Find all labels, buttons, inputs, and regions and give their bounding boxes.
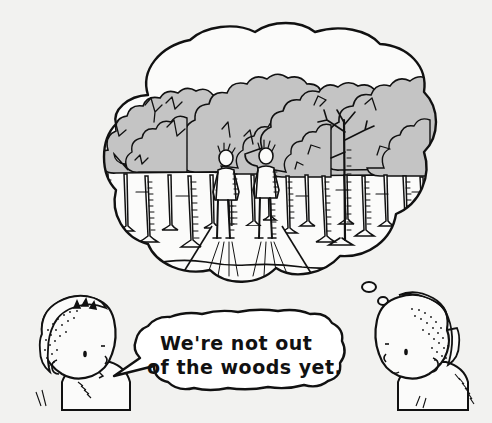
cartoon-panel: We're not out of the woods yet. We're no… bbox=[0, 0, 492, 423]
right-character-eye bbox=[404, 349, 408, 355]
left-character-eye bbox=[83, 351, 87, 357]
speech-line-2: of the woods yet. bbox=[147, 356, 342, 378]
speech-line-1: We're not out bbox=[160, 332, 312, 354]
thought-dot-large bbox=[362, 282, 376, 292]
cartoon-drawing: We're not out of the woods yet. bbox=[0, 0, 492, 423]
